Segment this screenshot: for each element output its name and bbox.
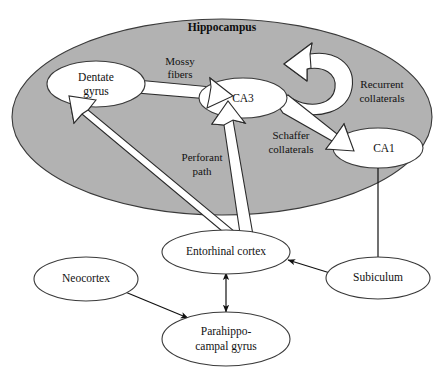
neocortex-label: Neocortex [62,272,110,284]
region-neocortex[interactable]: Neocortex [34,257,138,301]
region-subiculum[interactable]: Subiculum [326,257,430,299]
parahippocampal-gyrus-label-line1: Parahippo- [201,325,252,338]
schaffer-collaterals-label-line1: Schaffer [272,129,309,141]
neocortex-parahippocampal-double-arrow [118,289,188,318]
parahippocampal-gyrus-label-line2: campal gyrus [195,340,257,353]
diagram-canvas: Hippocampus Dentate gyrus CA [0,0,446,380]
recurrent-collaterals-label-line1: Recurrent [360,78,403,90]
subiculum-to-entorhinal-arrow [288,260,330,273]
dentate-gyrus-label-line1: Dentate [78,71,114,83]
hippocampus-label: Hippocampus [188,21,257,34]
ca3-label: CA3 [232,92,254,104]
mossy-fibers-label-line1: Mossy [165,55,195,67]
hippocampal-circuit-diagram: Hippocampus Dentate gyrus CA [0,0,446,380]
dentate-gyrus-label-line2: gyrus [83,85,109,98]
subiculum-label: Subiculum [353,271,403,283]
recurrent-collaterals-label-line2: collaterals [359,92,404,104]
ca1-label: CA1 [373,142,395,154]
mossy-fibers-label-line2: fibers [167,68,192,80]
entorhinal-cortex-label: Entorhinal cortex [186,245,266,257]
schaffer-collaterals-label-line2: collaterals [268,143,313,155]
perforant-path-label-line1: Perforant [182,151,223,163]
region-parahippocampal-gyrus[interactable]: Parahippo- campal gyrus [162,312,290,366]
region-entorhinal-cortex[interactable]: Entorhinal cortex [162,230,290,274]
perforant-path-label-line2: path [193,165,212,177]
